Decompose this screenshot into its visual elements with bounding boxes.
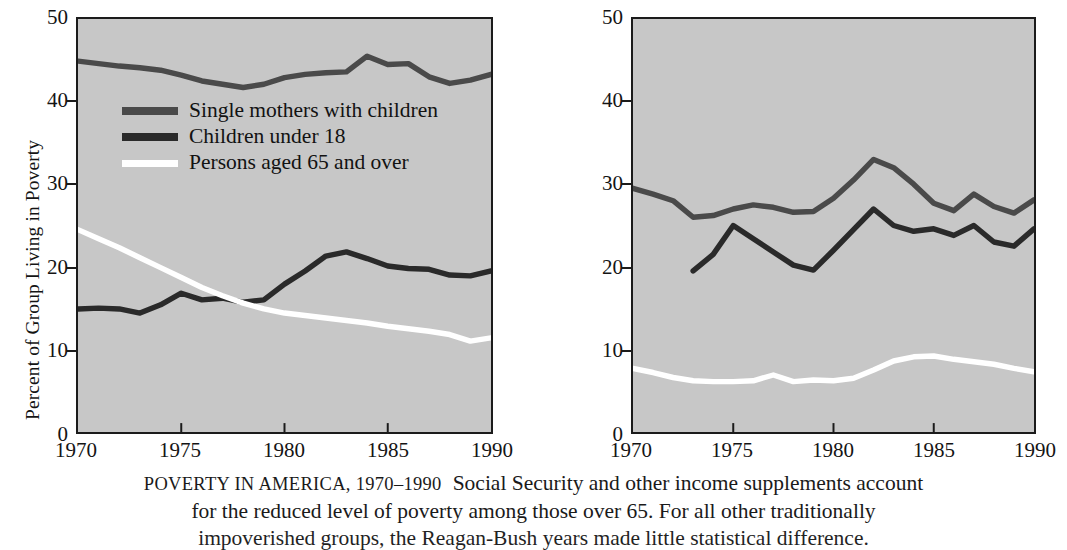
caption-text-2: for the reduced level of poverty among t…	[191, 499, 875, 523]
x-tick-label-right-1970: 1970	[591, 440, 671, 461]
legend-left: Single mothers with children Children un…	[122, 98, 438, 176]
legend-label-children-under-18: Children under 18	[189, 126, 345, 148]
x-tick-label-left-1975: 1975	[140, 440, 220, 461]
figure-caption: POVERTY IN AMERICA, 1970–1990Social Secu…	[0, 470, 1067, 550]
x-tick-label-right-1990: 1990	[995, 440, 1067, 461]
legend-item-persons-65-and-over: Persons aged 65 and over	[122, 150, 438, 176]
caption-text-3: impoverished groups, the Reagan-Bush yea…	[198, 526, 869, 550]
series-line-hispanic	[693, 209, 1034, 271]
y-tick-label-left-20: 20	[22, 257, 68, 278]
y-tick-label-right-40: 40	[577, 90, 623, 111]
y-tick-label-left-30: 30	[22, 173, 68, 194]
caption-line-1: POVERTY IN AMERICA, 1970–1990Social Secu…	[0, 470, 1067, 498]
y-tick-label-right-10: 10	[577, 340, 623, 361]
series-line-white	[633, 356, 1034, 382]
x-tick-label-right-1980: 1980	[793, 440, 873, 461]
legend-swatch-children-under-18	[122, 133, 178, 141]
caption-title-smallcaps: POVERTY IN AMERICA, 1970–1990	[144, 474, 442, 494]
y-tick-label-left-40: 40	[22, 90, 68, 111]
figure-page: Percent of Group Living in Poverty 50 40…	[0, 0, 1067, 550]
legend-item-children-under-18: Children under 18	[122, 124, 438, 150]
x-tick-label-right-1985: 1985	[894, 440, 974, 461]
plot-lines-right	[633, 19, 1034, 432]
series-line-black	[633, 159, 1034, 217]
series-line-single-mothers-with-children	[78, 56, 491, 87]
series-line-children-under-18	[78, 252, 491, 313]
x-tick-label-left-1970: 1970	[36, 440, 116, 461]
x-tick-label-left-1990: 1990	[452, 440, 532, 461]
chart-left-poverty-by-group: Percent of Group Living in Poverty 50 40…	[0, 0, 533, 470]
caption-line-2: for the reduced level of poverty among t…	[0, 498, 1067, 525]
legend-swatch-single-mothers	[122, 107, 178, 115]
caption-line-3: impoverished groups, the Reagan-Bush yea…	[0, 525, 1067, 550]
legend-label-single-mothers: Single mothers with children	[189, 100, 438, 122]
y-tick-label-right-30: 30	[577, 173, 623, 194]
x-tick-label-left-1985: 1985	[348, 440, 428, 461]
plot-area-left	[76, 17, 493, 434]
y-tick-label-right-50: 50	[577, 7, 623, 28]
x-tick-label-right-1975: 1975	[692, 440, 772, 461]
y-tick-label-right-20: 20	[577, 257, 623, 278]
x-tick-label-left-1980: 1980	[244, 440, 324, 461]
y-tick-label-left-50: 50	[22, 7, 68, 28]
legend-label-persons-65-and-over: Persons aged 65 and over	[189, 152, 409, 174]
legend-swatch-persons-65-and-over	[122, 160, 178, 167]
y-tick-label-left-10: 10	[22, 340, 68, 361]
chart-right-poverty-by-race: Percent of Group Living in Poverty 50 40…	[533, 0, 1067, 470]
legend-item-single-mothers: Single mothers with children	[122, 98, 438, 124]
plot-area-right	[631, 17, 1036, 434]
plot-lines-left	[78, 19, 491, 432]
caption-text-1: Social Security and other income supplem…	[453, 471, 923, 495]
